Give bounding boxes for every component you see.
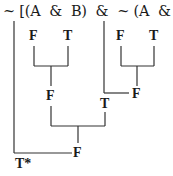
value-a1: F xyxy=(29,29,38,43)
value-conj2: F xyxy=(132,87,141,101)
value-b2: T xyxy=(149,29,158,43)
value-neg2: T xyxy=(100,97,109,111)
value-a2: F xyxy=(116,29,125,43)
truth-tree-lines xyxy=(0,0,173,176)
value-b1: T xyxy=(63,29,72,43)
value-conj1: F xyxy=(46,89,55,103)
value-main-conj: F xyxy=(73,146,82,160)
value-result: T* xyxy=(15,157,31,171)
